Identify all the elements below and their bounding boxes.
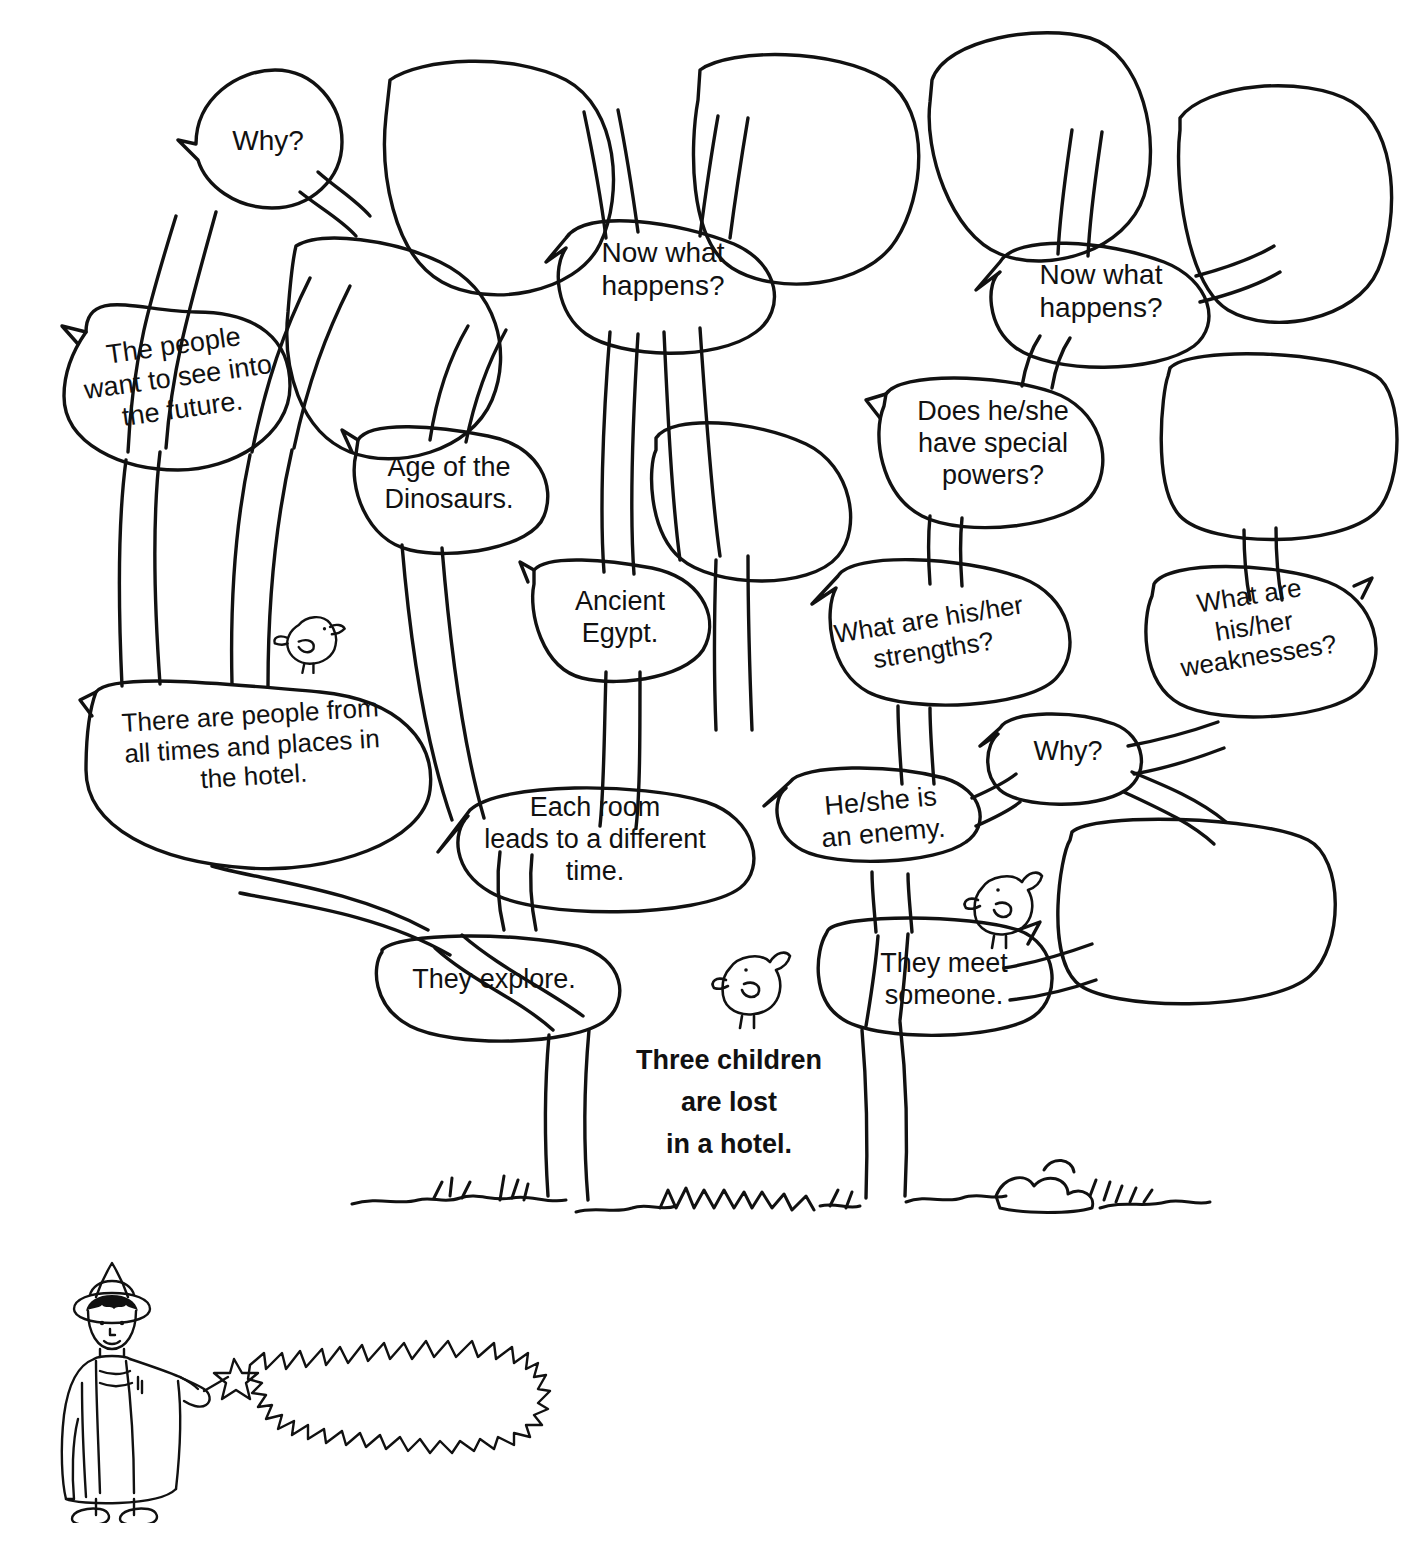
branch-nwhr-right-a [1196,246,1274,276]
leaf-enemy [764,768,980,861]
wizard-character [62,1263,228,1523]
branch-dino-down-b [442,548,484,818]
branch-nwh-down-b [632,334,638,574]
leaf-special-powers [879,378,1103,528]
trunk-label: Three children are lost in a hotel. [592,1040,866,1166]
worksheet-page: Why? The people want to see into the fut… [0,0,1404,1554]
trunk-right-edge [900,1022,906,1196]
leaf-blank-centre [652,423,851,581]
leaf-blank-top-3 [929,33,1150,261]
leaf-blank-top-4 [1179,86,1392,323]
branch-egypt-down-a [600,672,606,826]
branch-nwh-down-c [664,332,680,560]
branch-why-blank-a [1132,772,1226,822]
star-icon [214,1359,258,1399]
leaf-people-all-times [86,681,431,869]
branch-strength-up-a [929,516,931,584]
leaf-weaknesses [1146,567,1376,717]
branch-people-up-c [232,455,250,684]
bird-centre [713,953,790,1028]
branch-meet-enemy-b [908,874,912,932]
leaf-blank-top-2 [693,55,918,285]
trunk-left-edge [545,1035,549,1196]
bird-left [274,617,344,673]
leaf-strengths [812,560,1070,705]
leaf-now-what-happens-left [546,221,774,353]
leaf-notch-weaknesses [1354,578,1372,598]
leaf-notch-egypt [520,562,534,582]
branch-nwhr-up-a [1058,130,1072,254]
branch-nwh-up-a [584,112,606,238]
leaf-blank-bottom-right [1058,819,1335,1004]
branch-why-weak-a [1128,722,1218,746]
branch-rightblank-down-a [1244,530,1250,600]
branch-people-up-a [119,460,126,686]
leaf-age-of-dinosaurs [354,427,548,554]
branch-nwh-down-d [700,328,720,556]
branch-explore-to-room-a [498,852,504,930]
leaf-they-meet-someone [818,918,1052,1035]
branch-powers-up-a [1022,336,1040,386]
branch-lower-left-b [462,935,583,1016]
leaf-now-what-happens-right [976,243,1209,367]
branch-enemy-why-b [976,802,1020,826]
branch-meet-enemy-a [872,872,876,932]
leaf-blank-top-1 [385,61,614,295]
branch-nwh-up-b [618,110,638,232]
branch-dino-up-a [430,326,468,440]
leaf-people-future [64,305,290,470]
branch-meet-up-b [900,934,908,1020]
grass-ground [352,1160,1210,1212]
branch-nwh-down-a [602,332,610,572]
branch-meet-up-a [866,936,878,1026]
branch-why-stem-b [166,212,216,448]
leaf-why-right [980,714,1141,804]
branch-nwhr-up-b [1088,132,1102,256]
branch-egypt-down-b [636,672,640,828]
trunk-left-inner [585,1030,589,1200]
branch-why-weak-b [1134,748,1224,774]
branch-to-blankleft-a [252,278,310,452]
branch-centreblank-down-a [715,560,717,730]
branch-nwh-up-c [700,116,718,236]
speech-burst [248,1341,550,1453]
leaf-blank-right-mid [1161,354,1397,540]
take-it-further-section: Take it further! • With a friend, choose… [0,1245,1404,1554]
branch-to-blankleft-b [294,286,350,448]
branch-enemy-up-a [898,706,902,784]
leaf-they-explore [376,936,619,1041]
take-it-further-graphics [38,1253,598,1523]
leaf-ancient-egypt [533,560,710,681]
branch-people-up-b [155,452,160,684]
branch-explore-to-people-a [212,866,428,930]
branch-enemy-up-b [930,708,934,784]
branch-strength-up-b [961,518,963,586]
leaf-why-top-left [178,70,342,208]
branch-explore-to-room-b [531,855,536,930]
leaf-each-room [438,788,754,912]
branch-nwh-up-d [730,118,748,238]
